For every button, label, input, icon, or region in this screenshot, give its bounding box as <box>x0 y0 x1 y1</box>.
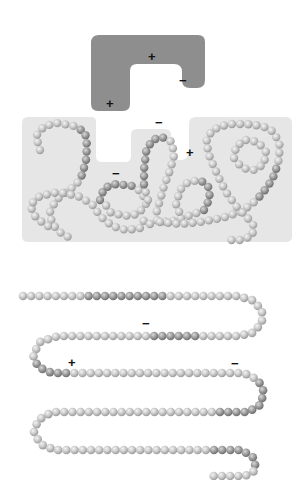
charge-label: + <box>186 145 194 160</box>
charge-label: − <box>179 73 187 88</box>
charge-label: − <box>231 356 239 371</box>
charge-label: − <box>142 316 150 331</box>
protein-folding-diagram: + − + − + − − + − <box>0 0 305 480</box>
unfolded-charges: − + − <box>68 316 239 371</box>
folded-protein <box>22 117 292 244</box>
charge-label: + <box>106 96 114 111</box>
charge-label: − <box>155 115 163 130</box>
charge-label: + <box>148 49 156 64</box>
charge-label: − <box>112 166 120 181</box>
charge-label: + <box>68 355 76 370</box>
